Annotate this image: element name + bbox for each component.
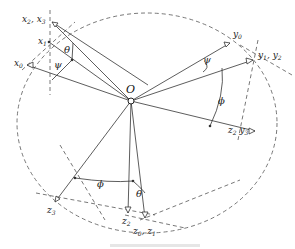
psi-right-label: ψ [203, 54, 211, 65]
label-z2: z2 [121, 216, 131, 227]
caption-cropped [110, 244, 200, 247]
label-z2-y3: z2 y3 [227, 125, 249, 136]
angle-labels: θ ψ ψ ϕ ϕ θ [54, 44, 225, 199]
label-x1: x1 [38, 36, 47, 47]
label-x2-x3: x2, x3 [22, 14, 46, 25]
origin-label: O [126, 83, 135, 96]
origin-point: O [126, 83, 135, 104]
label-z0-z1: z0, z1 [132, 226, 156, 237]
phi-right-label: ϕ [218, 95, 225, 106]
label-y1-y2: y1, y2 [257, 50, 282, 61]
label-x0: x0 [14, 58, 23, 69]
label-z3: z3 [46, 205, 56, 216]
dashed-construction-lines [22, 10, 292, 228]
rotation-frames-diagram: O x2, x3 x1 x0 y0 y1, y2 z2 y3 z3 z2 z0,… [0, 0, 295, 249]
theta-bottom-label: θ [136, 188, 142, 199]
theta-top-label: θ [64, 44, 70, 55]
label-y0: y0 [232, 29, 242, 40]
phi-bottom-label: ϕ [97, 178, 104, 189]
psi-top-label: ψ [54, 59, 62, 70]
